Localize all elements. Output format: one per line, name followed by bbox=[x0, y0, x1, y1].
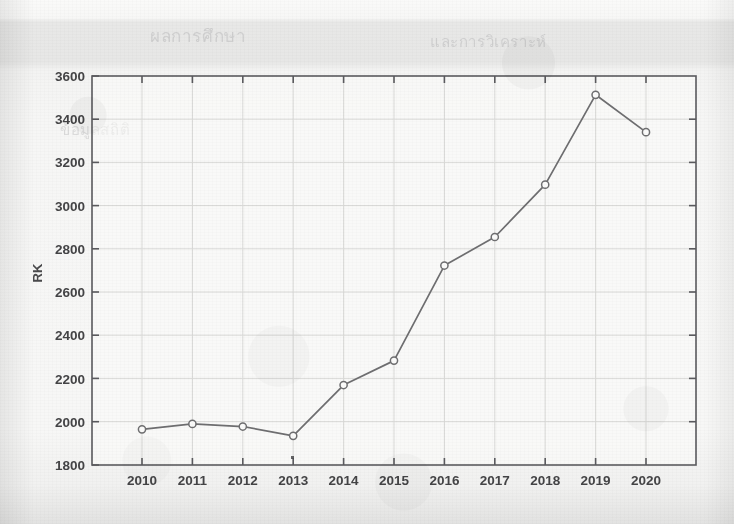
y-tick-label: 3000 bbox=[55, 199, 85, 214]
x-tick-label: 2020 bbox=[631, 473, 661, 488]
data-point-marker bbox=[491, 233, 498, 240]
x-tick-label: 2016 bbox=[429, 473, 460, 488]
y-tick-label: 3400 bbox=[55, 112, 85, 127]
scanned-page: ผลการศึกษา และการวิเคราะห์ ข้อมูลสถิติ bbox=[0, 0, 734, 524]
scan-speck-artifact bbox=[291, 456, 294, 459]
x-tick-label: 2013 bbox=[278, 473, 309, 488]
x-tick-label: 2017 bbox=[480, 473, 510, 488]
x-tick-label: 2014 bbox=[329, 473, 360, 488]
y-tick-label: 2000 bbox=[55, 415, 85, 430]
y-axis-tick-labels: 1800200022002400260028003000320034003600 bbox=[55, 69, 85, 473]
x-tick-label: 2015 bbox=[379, 473, 410, 488]
x-tick-label: 2019 bbox=[581, 473, 611, 488]
data-point-marker bbox=[542, 181, 549, 188]
y-tick-label: 2400 bbox=[55, 328, 85, 343]
data-point-marker bbox=[290, 432, 297, 439]
y-tick-label: 2800 bbox=[55, 242, 85, 257]
data-point-marker bbox=[390, 357, 397, 364]
x-tick-label: 2012 bbox=[228, 473, 258, 488]
data-point-marker bbox=[441, 262, 448, 269]
y-axis-title: RK bbox=[30, 263, 45, 282]
x-tick-label: 2018 bbox=[530, 473, 561, 488]
data-point-marker bbox=[340, 381, 347, 388]
x-tick-label: 2010 bbox=[127, 473, 157, 488]
y-tick-label: 2600 bbox=[55, 285, 85, 300]
data-point-marker bbox=[592, 91, 599, 98]
data-point-marker bbox=[189, 420, 196, 427]
line-chart: 1800200022002400260028003000320034003600… bbox=[0, 0, 734, 524]
y-tick-label: 1800 bbox=[55, 458, 85, 473]
y-tick-label: 3600 bbox=[55, 69, 85, 84]
x-tick-label: 2011 bbox=[178, 473, 208, 488]
y-tick-label: 2200 bbox=[55, 372, 85, 387]
x-axis-tick-labels: 2010201120122013201420152016201720182019… bbox=[127, 473, 661, 488]
data-point-marker bbox=[642, 129, 649, 136]
data-point-marker bbox=[239, 423, 246, 430]
data-point-marker bbox=[138, 426, 145, 433]
y-tick-label: 3200 bbox=[55, 155, 85, 170]
